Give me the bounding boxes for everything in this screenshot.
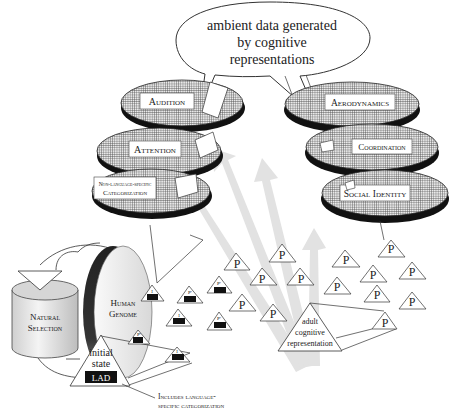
svg-text:P: P bbox=[388, 242, 395, 256]
genome-line-2: Genome bbox=[109, 309, 137, 319]
lad-label: LAD bbox=[92, 373, 111, 383]
natural-selection-cylinder: Natural Selection bbox=[12, 280, 78, 358]
p-triangle: P bbox=[360, 265, 387, 282]
p-triangles: P P P P P P P P P P P P P bbox=[224, 240, 426, 321]
svg-text:P: P bbox=[259, 272, 266, 286]
initial-state-line-2: state bbox=[92, 358, 111, 369]
p-triangle: P bbox=[269, 244, 296, 262]
svg-text:P': P' bbox=[217, 281, 221, 286]
annotation-line-2: specific categorization bbox=[158, 401, 224, 410]
bubble-line-1: ambient data generated bbox=[207, 18, 337, 33]
genome-line-1: Human bbox=[111, 298, 137, 308]
svg-text:P: P bbox=[343, 253, 350, 267]
adult-line-3: representation bbox=[287, 339, 332, 348]
svg-text:P': P' bbox=[217, 316, 221, 321]
intermediate-triangle: P' bbox=[177, 286, 203, 303]
disk-audition: Audition bbox=[121, 80, 245, 132]
bubble-line-2: by cognitive bbox=[237, 35, 307, 50]
annotation-line-1: Includes language- bbox=[158, 392, 216, 401]
disk-non-language-categorization: Non-language-specific Categorization bbox=[92, 169, 212, 219]
svg-text:P: P bbox=[409, 295, 416, 309]
svg-text:P: P bbox=[374, 288, 381, 302]
disk-label-social-identity: Social Identity bbox=[344, 189, 407, 199]
intermediate-triangle: I bbox=[166, 309, 192, 326]
intermediate-triangle: P' bbox=[207, 276, 232, 293]
disk-label-categorization-1: Non-language-specific bbox=[99, 181, 152, 187]
p-triangle: P bbox=[332, 250, 360, 267]
svg-text:P': P' bbox=[188, 290, 192, 295]
svg-text:P': P' bbox=[137, 332, 141, 337]
bubble-line-3: representations bbox=[230, 52, 315, 67]
p-triangle: P bbox=[378, 240, 405, 257]
svg-text:P: P bbox=[298, 272, 305, 286]
cylinder-line-2: Selection bbox=[28, 323, 63, 333]
disk-label-aerodynamics: Aerodynamics bbox=[331, 98, 389, 108]
svg-text:P: P bbox=[239, 298, 246, 312]
adult-line-2: cognitive bbox=[295, 328, 325, 337]
disk-coordination: Coordination bbox=[305, 124, 439, 177]
p-triangle: P bbox=[364, 285, 390, 302]
connector-line bbox=[150, 225, 203, 283]
initial-state-line-1: initial bbox=[89, 347, 113, 358]
diagram-canvas: ambient data generated by cognitive repr… bbox=[0, 0, 450, 411]
disk-label-attention: Attention bbox=[134, 144, 176, 155]
disk-label-audition: Audition bbox=[149, 96, 185, 107]
svg-text:P: P bbox=[279, 248, 286, 262]
svg-text:P: P bbox=[270, 307, 277, 321]
p-triangle: P bbox=[399, 292, 426, 309]
svg-text:P: P bbox=[234, 257, 241, 271]
p-triangle: P bbox=[324, 277, 351, 294]
svg-text:P: P bbox=[370, 268, 377, 282]
svg-text:P: P bbox=[334, 280, 341, 294]
p-triangle: P bbox=[399, 262, 426, 279]
intermediate-triangle: P' bbox=[207, 312, 232, 330]
svg-text:P: P bbox=[382, 316, 389, 330]
adult-line-1: adult bbox=[302, 317, 319, 326]
disk-label-coordination: Coordination bbox=[358, 142, 406, 152]
disk-label-categorization-2: Categorization bbox=[103, 189, 147, 197]
right-disk-stack: Aerodynamics Coordination Social Identit… bbox=[284, 75, 449, 240]
svg-text:P: P bbox=[409, 265, 416, 279]
disk-social-identity: Social Identity bbox=[321, 170, 449, 223]
cylinder-line-1: Natural bbox=[30, 312, 61, 322]
